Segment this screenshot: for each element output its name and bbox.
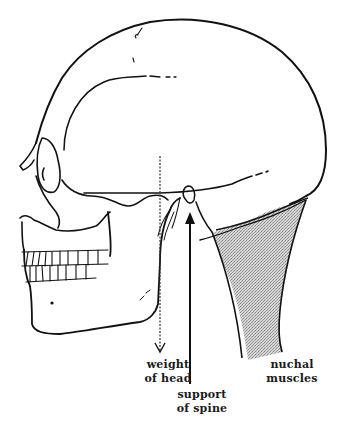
mandible: [24, 198, 180, 334]
nuchal-muscles-label: nuchal muscles: [262, 358, 322, 386]
weight-label-line2: of head: [138, 372, 198, 386]
nuchal-label-line1: nuchal: [262, 358, 322, 372]
facial-bones: [20, 138, 168, 250]
nuchal-label-line2: muscles: [262, 372, 322, 386]
weight-label-line1: weight: [138, 358, 198, 372]
nuchal-muscles: [212, 198, 308, 360]
support-label-line1: support: [170, 388, 234, 402]
weight-of-head-label: weight of head: [138, 358, 198, 386]
support-of-spine-label: support of spine: [170, 388, 234, 416]
weight-of-head-arrow: [155, 156, 165, 352]
teeth: [22, 250, 108, 282]
support-label-line2: of spine: [170, 402, 234, 416]
